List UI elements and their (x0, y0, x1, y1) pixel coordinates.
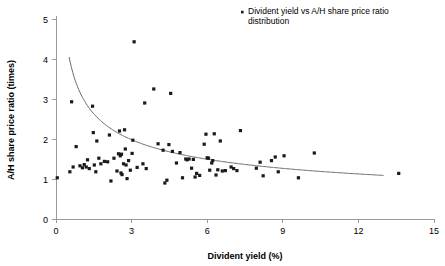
y-tick-label: 1 (43, 175, 48, 185)
data-point (255, 167, 258, 170)
data-point (93, 163, 96, 166)
data-point (103, 160, 106, 163)
legend-label-line-1: Divident yield vs A/H share price ratio (248, 6, 389, 16)
y-tick-label: 5 (43, 15, 48, 25)
legend-marker (241, 11, 244, 14)
data-point (232, 167, 235, 170)
x-tick-label: 15 (429, 226, 439, 236)
data-point (125, 177, 128, 180)
data-point (211, 159, 214, 162)
data-point (165, 179, 168, 182)
data-point (75, 145, 78, 148)
data-point (81, 166, 84, 169)
data-point (141, 162, 144, 165)
axis-ticks (52, 19, 434, 223)
data-point (131, 152, 134, 155)
data-point (195, 172, 198, 175)
legend-label-line-2: distribution (248, 16, 289, 26)
data-point (224, 169, 227, 172)
data-point (313, 151, 316, 154)
data-point (277, 170, 280, 173)
data-point (109, 179, 112, 182)
x-tick-label: 0 (53, 226, 58, 236)
data-point (163, 181, 166, 184)
data-point (108, 133, 111, 136)
data-point (204, 133, 207, 136)
scatter-plot: 01234503691215 Divident yield vs A/H sha… (0, 0, 445, 266)
data-point (169, 92, 172, 95)
data-point (397, 172, 400, 175)
data-point (192, 158, 195, 161)
data-point (112, 157, 115, 160)
data-point (239, 129, 242, 132)
y-tick-label: 0 (43, 215, 48, 225)
data-point (214, 173, 217, 176)
data-point (120, 173, 123, 176)
data-point (70, 100, 73, 103)
y-tick-label: 2 (43, 135, 48, 145)
data-point (221, 169, 224, 172)
chart-container: 01234503691215 Divident yield vs A/H sha… (0, 0, 445, 266)
data-point (129, 169, 132, 172)
data-point (259, 161, 262, 164)
data-point (274, 155, 277, 158)
data-point (190, 167, 193, 170)
data-point (124, 163, 127, 166)
data-point (88, 167, 91, 170)
data-point (99, 162, 102, 165)
data-point (91, 105, 94, 108)
data-point (92, 131, 95, 134)
chart-legend: Divident yield vs A/H share price ratiod… (241, 6, 389, 26)
y-tick-label: 3 (43, 95, 48, 105)
data-point (282, 154, 285, 157)
data-point (167, 143, 170, 146)
data-point (175, 161, 178, 164)
data-point (115, 169, 118, 172)
data-point (219, 139, 222, 142)
data-point (207, 157, 210, 160)
data-point (270, 159, 273, 162)
data-point (203, 143, 206, 146)
x-tick-label: 12 (353, 226, 363, 236)
y-tick-label: 4 (43, 55, 48, 65)
trend-curve (69, 57, 384, 175)
y-axis-title: A/H share price ratio (times) (6, 60, 16, 180)
data-point (131, 139, 134, 142)
data-point (198, 174, 201, 177)
data-point (162, 149, 165, 152)
data-point (68, 170, 71, 173)
data-point (178, 151, 181, 154)
data-point (187, 157, 190, 160)
data-point (123, 128, 126, 131)
x-axis-title: Divident yield (%) (207, 251, 282, 261)
data-point (143, 101, 146, 104)
data-point (86, 158, 89, 161)
data-point (120, 153, 123, 156)
data-point (145, 167, 148, 170)
data-point (181, 176, 184, 179)
x-tick-label: 9 (280, 226, 285, 236)
data-point (118, 129, 121, 132)
data-point (94, 170, 97, 173)
data-point (97, 157, 100, 160)
data-point (171, 150, 174, 153)
axes (56, 16, 434, 219)
data-point (106, 160, 109, 163)
data-point (156, 142, 159, 145)
data-point (124, 147, 127, 150)
data-point (262, 174, 265, 177)
data-point (235, 169, 238, 172)
data-point (194, 175, 197, 178)
data-point (95, 139, 98, 142)
data-point (152, 87, 155, 90)
x-tick-label: 6 (205, 226, 210, 236)
data-point (136, 166, 139, 169)
data-point (72, 165, 75, 168)
data-point (56, 176, 59, 179)
data-point (133, 40, 136, 43)
trend-line (69, 57, 384, 175)
data-point (208, 169, 211, 172)
data-point (213, 132, 216, 135)
data-point (297, 176, 300, 179)
axis-tick-labels: 01234503691215 (43, 15, 439, 237)
